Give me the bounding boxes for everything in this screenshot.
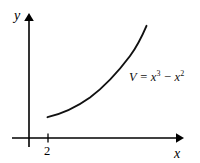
y-axis-label: y [12,8,21,23]
x-axis-label: x [173,146,181,161]
x-axis-arrow-icon [176,133,184,143]
y-axis-arrow-icon [24,13,34,21]
x-tick-2-label: 2 [44,144,50,158]
equation-lhs: V [129,70,137,84]
figure-container: y x 2 V = x3 − x2 [0,0,200,163]
equation-term2-exponent: 2 [180,69,184,78]
equation-minus-operator: − [161,70,175,84]
equation-annotation: V = x3 − x2 [129,70,185,85]
equation-equals: = [137,70,151,84]
